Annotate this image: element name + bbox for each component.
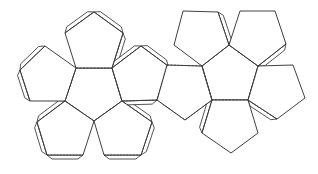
left-bottom-left-glue-tab [47,155,83,159]
left-top-pentagon-face [65,12,123,68]
left-bottom-right-glue-tab [104,155,141,159]
dodecahedron-net-diagram [0,0,318,174]
right-right-pentagon-face [248,65,305,119]
pentagon-faces [20,11,305,155]
right-bottom-pentagon-face [202,100,258,153]
